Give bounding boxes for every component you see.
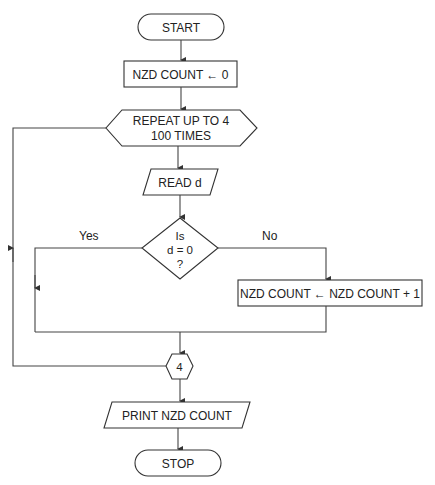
connector-label: 4: [176, 361, 183, 373]
no-branch-line: [218, 248, 326, 279]
merge-line: [35, 306, 326, 332]
no-branch-label: No: [262, 229, 278, 243]
decision-label-line1: Is: [176, 230, 185, 242]
init-process-box: NZD COUNT ← 0: [124, 61, 237, 87]
loop-end-connector: 4: [166, 354, 193, 379]
read-label: READ d: [158, 176, 201, 190]
yes-branch-line: [35, 248, 142, 332]
increment-process-box: NZD COUNT ← NZD COUNT + 1: [238, 280, 422, 306]
loop-label-line2: 100 TIMES: [151, 129, 211, 143]
start-terminator: START: [138, 14, 224, 40]
stop-terminator: STOP: [135, 450, 221, 476]
start-label: START: [162, 21, 201, 35]
read-input-parallelogram: READ d: [143, 169, 218, 195]
print-label: PRINT NZD COUNT: [122, 409, 232, 423]
print-output-parallelogram: PRINT NZD COUNT: [104, 402, 250, 428]
decision-label-line2: d = 0: [167, 244, 193, 256]
stop-label: STOP: [162, 457, 194, 471]
flowchart-canvas: START NZD COUNT ← 0 REPEAT UP TO 4 100 T…: [0, 0, 435, 485]
init-label: NZD COUNT ← 0: [133, 68, 229, 82]
decision-label-line3: ?: [177, 258, 183, 270]
loop-label-line1: REPEAT UP TO 4: [133, 114, 230, 128]
increment-label: NZD COUNT ← NZD COUNT + 1: [240, 287, 420, 301]
loop-start-hexagon: REPEAT UP TO 4 100 TIMES: [106, 110, 257, 146]
decision-diamond: Is d = 0 ?: [142, 218, 218, 279]
yes-branch-label: Yes: [79, 229, 99, 243]
